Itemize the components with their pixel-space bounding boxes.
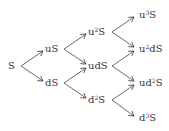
edge-arrow bbox=[21, 51, 43, 66]
edge-arrow bbox=[64, 49, 86, 64]
node-suffix: S bbox=[149, 9, 156, 20]
node-suffix: dS bbox=[149, 43, 162, 54]
edge-arrow bbox=[64, 68, 86, 83]
edge-arrow bbox=[112, 66, 134, 81]
edge-arrow bbox=[112, 100, 134, 116]
edge-arrow bbox=[112, 51, 134, 66]
node-n3udd: ud2S bbox=[139, 78, 163, 88]
node-n2ud: udS bbox=[88, 61, 108, 71]
node-suffix: S bbox=[51, 43, 58, 54]
node-suffix: S bbox=[149, 112, 156, 123]
node-suffix: S bbox=[98, 26, 105, 37]
node-n1u: uS bbox=[45, 44, 58, 54]
edge-arrow bbox=[64, 34, 86, 49]
node-n2dd: d2S bbox=[88, 95, 105, 105]
edge-arrow bbox=[21, 66, 43, 81]
node-n3uuu: u3S bbox=[139, 10, 156, 20]
node-prefix: ud bbox=[88, 60, 101, 71]
node-n3ddd: d3S bbox=[139, 113, 156, 123]
binomial-tree-diagram: SuSdSu2SudSd2Su3Su2dSud2Sd3S bbox=[0, 0, 169, 131]
node-suffix: S bbox=[101, 60, 108, 71]
node-suffix: S bbox=[156, 77, 163, 88]
node-suffix: S bbox=[8, 60, 15, 71]
edge-arrow bbox=[112, 32, 134, 47]
edge-arrow bbox=[112, 85, 134, 100]
node-prefix: ud bbox=[139, 77, 152, 88]
node-n1d: dS bbox=[45, 78, 58, 88]
edge-arrow bbox=[64, 83, 86, 98]
edge-arrow bbox=[112, 17, 134, 32]
node-n3uud: u2dS bbox=[139, 44, 163, 54]
node-suffix: S bbox=[51, 77, 58, 88]
node-suffix: S bbox=[98, 94, 105, 105]
node-n0: S bbox=[8, 61, 15, 71]
node-n2uu: u2S bbox=[88, 27, 105, 37]
